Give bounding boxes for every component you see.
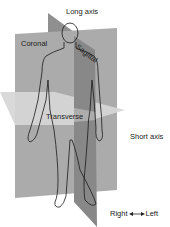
left-label: Left: [146, 210, 159, 218]
right-left-axis: Right Left: [110, 210, 158, 218]
long-axis-label: Long axis: [66, 8, 98, 16]
short-axis-label: Short axis: [130, 133, 163, 141]
right-label: Right: [110, 210, 128, 218]
anatomical-planes-diagram: Long axis Coronal Sagittal Transverse Sh…: [0, 0, 170, 227]
planes-illustration: [0, 0, 170, 227]
transverse-plane-label: Transverse: [46, 113, 83, 121]
coronal-plane-label: Coronal: [21, 40, 47, 48]
left-right-double-arrow-icon: [129, 211, 145, 217]
